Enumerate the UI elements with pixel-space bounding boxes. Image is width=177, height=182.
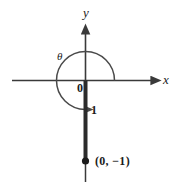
x-axis-label: x: [163, 73, 169, 86]
y-axis-label: y: [83, 6, 89, 19]
angle-diagram-figure: y x θ 0 1 (0, −1): [0, 0, 177, 182]
diagram-canvas: [0, 0, 177, 182]
point-coordinate-label: (0, −1): [95, 155, 130, 167]
origin-label: 0: [77, 82, 83, 94]
point-marker-0-neg1: [82, 157, 89, 164]
radius-length-label: 1: [91, 104, 97, 116]
theta-angle-label: θ: [57, 51, 62, 62]
